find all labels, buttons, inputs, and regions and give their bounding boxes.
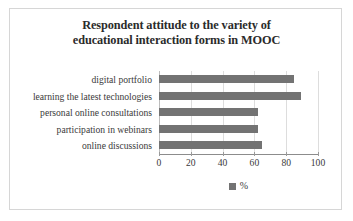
plot-area (159, 71, 318, 154)
bar-personal-online-consultations[interactable] (159, 108, 258, 116)
category-label-learning-latest-technologies: learning the latest technologies (24, 91, 152, 102)
bar-online-discussions[interactable] (159, 141, 262, 149)
tick-label-20: 20 (186, 157, 196, 168)
bar-participation-in-webinars[interactable] (159, 125, 258, 133)
category-axis-labels: digital portfolio learning the latest te… (28, 71, 156, 154)
tick-label-100: 100 (311, 157, 325, 168)
tick-label-60: 60 (250, 157, 260, 168)
bar-row (159, 71, 318, 88)
legend-swatch-percent (229, 183, 236, 190)
chart-frame: Respondent attitude to the variety of ed… (9, 8, 342, 210)
chart-title: Respondent attitude to the variety of ed… (24, 18, 329, 48)
chart-title-line-1: Respondent attitude to the variety of (24, 18, 329, 33)
tick-label-0: 0 (157, 157, 162, 168)
chart-legend: % (159, 181, 318, 191)
category-label-personal-online-consultations: personal online consultations (24, 107, 152, 118)
bar-row (159, 88, 318, 105)
gridline-100 (318, 71, 319, 154)
tick-label-40: 40 (218, 157, 228, 168)
bar-row (159, 121, 318, 138)
value-axis-baseline (159, 154, 318, 155)
legend-label-percent: % (240, 181, 248, 191)
category-label-participation-in-webinars: participation in webinars (24, 124, 152, 135)
chart-title-line-2: educational interaction forms in MOOC (24, 33, 329, 48)
bar-row (159, 137, 318, 154)
category-label-digital-portfolio: digital portfolio (24, 74, 152, 85)
value-axis-tick-labels: 0 20 40 60 80 100 (159, 157, 318, 171)
bar-row (159, 104, 318, 121)
category-label-online-discussions: online discussions (24, 140, 152, 151)
tick-label-80: 80 (281, 157, 291, 168)
bar-learning-latest-technologies[interactable] (159, 92, 301, 100)
bar-digital-portfolio[interactable] (159, 75, 294, 83)
